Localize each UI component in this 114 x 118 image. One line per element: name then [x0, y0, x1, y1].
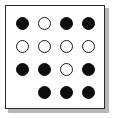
dot-cell — [55, 12, 77, 35]
dot-grid — [6, 6, 104, 108]
open-dot-icon — [60, 40, 73, 53]
dot-cell — [33, 58, 55, 81]
dot-cell — [33, 81, 55, 104]
empty-dot-slot — [16, 86, 29, 99]
filled-dot-icon — [38, 63, 51, 76]
filled-dot-icon — [16, 63, 29, 76]
filled-dot-icon — [38, 86, 51, 99]
filled-dot-icon — [82, 86, 95, 99]
dot-cell — [11, 58, 33, 81]
dot-cell — [11, 12, 33, 35]
dot-cell — [77, 58, 99, 81]
dot-cell — [11, 81, 33, 104]
open-dot-icon — [38, 40, 51, 53]
open-dot-icon — [60, 63, 73, 76]
filled-dot-icon — [60, 17, 73, 30]
dot-grid-frame — [5, 5, 105, 109]
dot-cell — [33, 35, 55, 58]
dot-cell — [55, 58, 77, 81]
screenshot-root — [0, 0, 114, 118]
open-dot-icon — [38, 17, 51, 30]
dot-cell — [77, 12, 99, 35]
dot-cell — [55, 81, 77, 104]
dot-cell — [55, 35, 77, 58]
dot-cell — [11, 35, 33, 58]
filled-dot-icon — [82, 63, 95, 76]
dot-cell — [77, 81, 99, 104]
dot-cell — [77, 35, 99, 58]
open-dot-icon — [16, 40, 29, 53]
filled-dot-icon — [82, 17, 95, 30]
filled-dot-icon — [60, 86, 73, 99]
dot-cell — [33, 12, 55, 35]
filled-dot-icon — [16, 17, 29, 30]
open-dot-icon — [82, 40, 95, 53]
